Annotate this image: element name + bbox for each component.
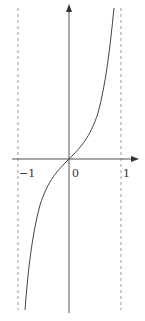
label-neg-one: −1 [19,167,35,180]
y-axis-arrow-icon [66,4,72,12]
x-axis-arrow-icon [131,156,139,162]
label-origin: 0 [72,167,79,180]
function-graph: −1 0 1 [0,0,145,321]
label-one: 1 [123,167,130,180]
